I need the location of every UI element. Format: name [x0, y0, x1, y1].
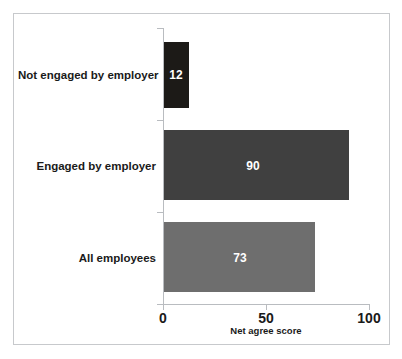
x-tick-label-0: 0 — [159, 310, 167, 326]
bar-value-all-employees: 73 — [233, 251, 246, 265]
x-tick-label-100: 100 — [357, 310, 380, 326]
bar-value-not-engaged-by-employer: 12 — [169, 68, 182, 82]
bar-chart-figure: 12 Not engaged by employer 90 Engaged by… — [0, 0, 402, 359]
x-axis-title: Net agree score — [230, 325, 301, 336]
x-tick-label-50: 50 — [258, 310, 274, 326]
bar-value-engaged-by-employer: 90 — [246, 159, 259, 173]
category-axis-tick-1 — [157, 120, 163, 121]
category-label-not-engaged-by-employer: Not engaged by employer — [18, 69, 156, 81]
category-axis-tick-2 — [157, 212, 163, 213]
category-axis-tick-top — [157, 28, 163, 29]
category-label-engaged-by-employer: Engaged by employer — [18, 160, 156, 172]
category-label-all-employees: All employees — [18, 252, 156, 264]
